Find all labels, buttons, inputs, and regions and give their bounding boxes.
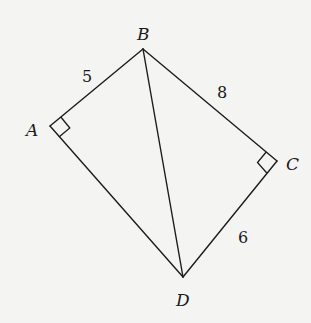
vertex-label-c: C: [286, 154, 299, 174]
edge-ad: [50, 126, 183, 277]
right-angle-marker-c: [258, 152, 267, 173]
edge-length-cd: 6: [238, 228, 248, 247]
edge-cd: [183, 161, 277, 277]
edge-length-ab: 5: [82, 67, 92, 86]
edge-bc: [143, 49, 277, 161]
edge-length-bc: 8: [217, 83, 227, 102]
diagram-canvas: B A C D 5 8 6: [0, 0, 311, 323]
vertex-label-d: D: [175, 290, 190, 310]
quadrilateral-figure: B A C D 5 8 6: [0, 0, 311, 323]
edge-ab: [50, 49, 143, 126]
vertex-label-b: B: [136, 24, 150, 44]
right-angle-marker-a: [59, 117, 70, 137]
vertex-label-a: A: [24, 120, 38, 140]
edge-bd: [143, 49, 183, 277]
